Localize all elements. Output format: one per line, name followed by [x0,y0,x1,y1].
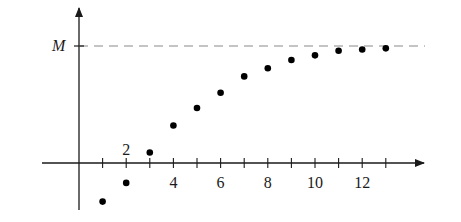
x-tick-label: 12 [354,174,370,191]
x-tick-label: 4 [169,174,177,191]
x-tick-label: 6 [217,174,225,191]
data-points [99,45,389,205]
data-point [359,46,366,53]
x-tick-label: 10 [307,174,323,191]
x-tick-label: 8 [264,174,272,191]
data-point [194,105,201,112]
x-tick-label: 2 [122,141,130,158]
data-point [288,57,295,64]
data-point [265,65,272,72]
asymptote-label: M [51,37,67,54]
data-point [123,180,130,187]
data-point [312,52,319,59]
data-point [217,90,224,97]
sequence-plot: M 24681012 [0,0,461,222]
data-point [170,122,177,129]
x-tick-labels: 24681012 [122,141,370,191]
data-point [335,47,342,54]
data-point [383,45,390,52]
data-point [241,73,248,80]
data-point [147,149,154,156]
data-point [99,198,106,205]
